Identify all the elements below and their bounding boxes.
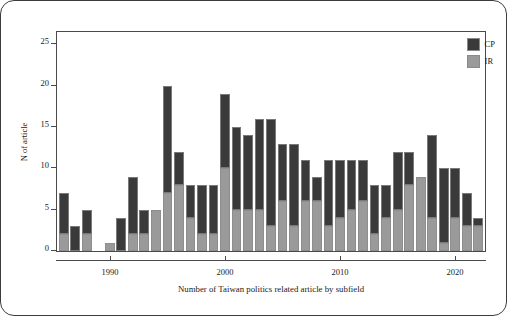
bar-segment-ir <box>335 218 345 251</box>
bar-segment-cp <box>370 185 380 235</box>
bar-segment-ir <box>404 185 414 251</box>
x-axis-title: Number of Taiwan politics related articl… <box>56 284 486 294</box>
bar-group <box>232 127 242 251</box>
bar-segment-ir <box>393 210 403 251</box>
bar-group <box>381 185 391 251</box>
bar-segment-ir <box>358 201 368 251</box>
bar-segment-ir <box>381 218 391 251</box>
bar-group <box>197 185 207 251</box>
bar-segment-cp <box>70 226 80 251</box>
bar-segment-ir <box>186 218 196 251</box>
bar-group <box>278 144 288 251</box>
bar-segment-ir <box>163 193 173 251</box>
bar-segment-ir <box>473 226 483 251</box>
bar-segment-cp <box>278 144 288 202</box>
bar-group <box>186 185 196 251</box>
bar-group <box>105 243 115 251</box>
y-tick-label: 10 <box>41 161 50 170</box>
bar-segment-cp <box>232 127 242 210</box>
y-tick-label: 0 <box>45 244 49 253</box>
bar-segment-cp <box>289 144 299 227</box>
bar-group <box>255 119 265 251</box>
bar-segment-cp <box>163 86 173 193</box>
bar-group <box>439 168 449 251</box>
x-axis: 1990200020102020 <box>56 252 486 282</box>
bar-segment-ir <box>220 168 230 251</box>
y-axis: N of article 0510152025 <box>1 31 56 252</box>
bar-segment-cp <box>255 119 265 210</box>
bar-segment-cp <box>128 177 138 235</box>
bar-group <box>116 218 126 251</box>
bar-group <box>416 177 426 251</box>
bar-segment-cp <box>82 210 92 235</box>
bar-segment-cp <box>266 119 276 226</box>
bar-group <box>358 160 368 251</box>
figure-card: N of article 0510152025 1990200020102020… <box>0 0 507 316</box>
x-tick-label: 2020 <box>447 267 464 277</box>
bar-segment-cp <box>450 168 460 218</box>
bar-segment-cp <box>324 160 334 226</box>
y-tick-label: 15 <box>41 120 50 129</box>
bar-group <box>139 210 149 251</box>
bar-group <box>70 226 80 251</box>
y-tick-label: 20 <box>41 79 50 88</box>
bar-group <box>324 160 334 251</box>
bar-group <box>427 135 437 251</box>
plot-frame <box>56 31 486 252</box>
bar-segment-cp <box>335 160 345 218</box>
bar-segment-ir <box>416 177 426 251</box>
bar-segment-ir <box>370 234 380 251</box>
bar-group <box>347 160 357 251</box>
bar-segment-ir <box>324 226 334 251</box>
bar-group <box>301 160 311 251</box>
bar-segment-cp <box>243 135 253 209</box>
x-tick-mark <box>340 256 341 261</box>
bar-segment-ir <box>209 234 219 251</box>
bar-segment-ir <box>450 218 460 251</box>
legend-swatch-cp <box>467 38 480 51</box>
bar-group <box>209 185 219 251</box>
bar-segment-cp <box>197 185 207 235</box>
y-tick-label: 5 <box>45 203 49 212</box>
bar-segment-cp <box>220 94 230 168</box>
legend-label-ir: IR <box>485 57 494 66</box>
bar-segment-ir <box>462 226 472 251</box>
legend-label-cp: CP <box>485 40 495 49</box>
bar-segment-ir <box>139 234 149 251</box>
bar-segment-cp <box>393 152 403 210</box>
bar-segment-ir <box>243 210 253 251</box>
bar-segment-ir <box>312 201 322 251</box>
bar-segment-cp <box>139 210 149 235</box>
y-tick-label: 25 <box>41 37 50 46</box>
bar-segment-cp <box>439 168 449 242</box>
bar-segment-ir <box>82 234 92 251</box>
bar-group <box>335 160 345 251</box>
bar-group <box>59 193 69 251</box>
bar-segment-ir <box>301 201 311 251</box>
legend-item-cp: CP <box>467 38 495 51</box>
bar-segment-ir <box>59 234 69 251</box>
bar-group <box>243 135 253 251</box>
bar-segment-ir <box>347 210 357 251</box>
bar-segment-ir <box>128 234 138 251</box>
x-tick-mark <box>455 256 456 261</box>
bar-group <box>163 86 173 251</box>
bar-segment-ir <box>255 210 265 251</box>
bar-segment-ir <box>197 234 207 251</box>
bar-group <box>473 218 483 251</box>
x-tick-label: 2010 <box>332 267 349 277</box>
bar-segment-ir <box>289 226 299 251</box>
bar-segment-ir <box>105 243 115 251</box>
bar-group <box>220 94 230 251</box>
bar-segment-cp <box>209 185 219 235</box>
bar-segment-ir <box>427 218 437 251</box>
bar-group <box>312 177 322 251</box>
bar-group <box>128 177 138 251</box>
bar-segment-cp <box>358 160 368 201</box>
bar-group <box>174 152 184 251</box>
bar-group <box>370 185 380 251</box>
bar-segment-ir <box>151 210 161 251</box>
bar-segment-cp <box>59 193 69 234</box>
legend-swatch-ir <box>467 55 480 68</box>
bar-segment-cp <box>312 177 322 202</box>
